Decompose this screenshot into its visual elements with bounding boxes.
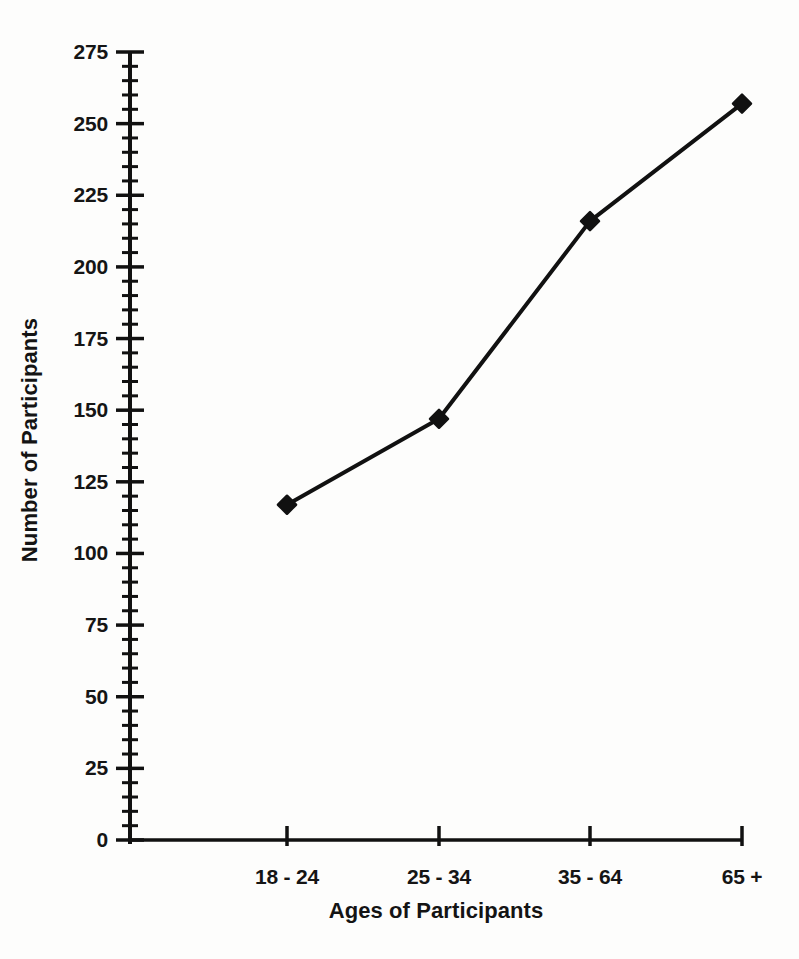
y-axis-tick-label: 125 <box>74 470 108 494</box>
series-line <box>287 104 742 505</box>
data-series-group <box>287 104 742 505</box>
x-axis-tick-label: 25 - 34 <box>407 865 471 889</box>
x-axis-tick-label: 65 + <box>722 865 763 889</box>
line-chart-plot <box>0 0 799 959</box>
y-axis-title: Number of Participants <box>17 318 43 562</box>
y-axis-tick-label: 75 <box>85 613 108 637</box>
data-point-marker <box>278 496 296 514</box>
y-axis-tick-label: 50 <box>85 685 108 709</box>
y-axis-tick-label: 225 <box>74 183 108 207</box>
x-axis-title: Ages of Participants <box>329 898 544 924</box>
x-axis-tick-label: 35 - 64 <box>558 865 622 889</box>
y-axis-tick-label: 275 <box>74 40 108 64</box>
data-markers-group <box>278 95 751 514</box>
y-axis-tick-label: 250 <box>74 112 108 136</box>
x-axis-tick-label: 18 - 24 <box>255 865 319 889</box>
y-axis-tick-label: 25 <box>85 756 108 780</box>
y-axis-tick-label: 100 <box>74 541 108 565</box>
y-axis-tick-label: 150 <box>74 398 108 422</box>
y-axis-tick-label: 175 <box>74 327 108 351</box>
y-axis-tick-label: 200 <box>74 255 108 279</box>
chart-container: 2752502252001751501251007550250 18 - 242… <box>0 0 799 959</box>
tick-marks-group <box>116 52 742 846</box>
y-axis-tick-label: 0 <box>97 828 108 852</box>
axes-group <box>130 52 742 844</box>
